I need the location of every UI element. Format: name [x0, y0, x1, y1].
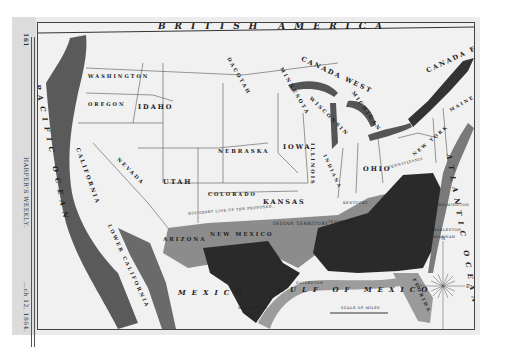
map-svg — [38, 23, 474, 329]
publication-date: …ch 12, 1864. — [23, 282, 30, 332]
label-mexico: MEXICO — [178, 288, 247, 297]
map-frame: BRITISH AMERICA CANADA WEST CANADA EAST … — [37, 22, 475, 330]
label-arizona: ARIZONA — [163, 236, 207, 242]
label-washington: WASHINGTON — [88, 73, 149, 79]
compass-north: N — [441, 235, 446, 241]
label-illinois: ILLINOIS — [310, 143, 316, 186]
label-idaho: IDAHO — [138, 103, 174, 111]
label-kentucky: KENTUCKY — [343, 201, 368, 205]
label-gulf-of-mexico: GULF OF MEXICO — [278, 285, 433, 294]
city-wilmington: WILMINGTON — [438, 203, 469, 207]
label-utah: UTAH — [163, 178, 192, 186]
label-british-america: BRITISH AMERICA — [158, 22, 391, 31]
spine-rule — [34, 37, 35, 347]
label-colorado: COLORADO — [208, 191, 257, 197]
page-number: 161 — [23, 33, 30, 47]
scale-label: SCALE OF MILES — [341, 306, 380, 310]
compass-west: W — [416, 283, 422, 289]
page-spine: 161 HARPER'S WEEKLY. …ch 12, 1864. — [12, 17, 36, 335]
label-indian-territory: INDIAN TERRITORY — [273, 221, 328, 226]
label-nebraska: NEBRASKA — [218, 148, 270, 154]
city-matamoras: MATAMORAS — [238, 306, 267, 310]
label-iowa: IOWA — [283, 143, 312, 151]
spine-rule — [31, 37, 32, 347]
city-galveston: GALVESTON — [296, 281, 323, 285]
compass-east: E — [466, 283, 470, 289]
label-tennessee: TENNESSEE — [328, 220, 356, 224]
publication-name: HARPER'S WEEKLY. — [23, 157, 30, 228]
city-charleston: CHARLESTON — [430, 228, 461, 232]
label-oregon: OREGON — [88, 101, 126, 107]
label-new-mexico: NEW MEXICO — [210, 231, 274, 237]
